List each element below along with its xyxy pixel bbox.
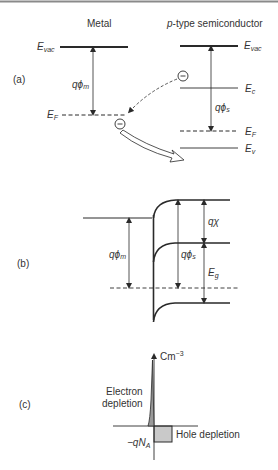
hole-depletion-label: Hole depletion bbox=[176, 429, 240, 440]
semi-ev-label: Ev bbox=[245, 143, 256, 155]
electron-transfer-arrow bbox=[130, 79, 177, 111]
semi-ec-label: Ec bbox=[245, 83, 256, 95]
phi-s-label: qϕs bbox=[181, 249, 196, 260]
panel-b: (b) qϕm qϕs qχ Eg bbox=[17, 200, 240, 322]
metal-semiconductor-band-diagram: (a) Metal p-type semiconductor Evac EF q… bbox=[0, 0, 278, 470]
hollow-flow-arrow bbox=[120, 130, 184, 162]
panel-c: (c) Cm−3 Electron depletion Hole depleti… bbox=[19, 350, 240, 460]
electron-affinity-label: qχ bbox=[208, 216, 220, 227]
electron-depletion-label-2: depletion bbox=[102, 398, 143, 409]
panel-a-label: (a) bbox=[13, 74, 25, 85]
metal-title: Metal bbox=[87, 18, 111, 29]
metal-evac-label: Evac bbox=[37, 41, 55, 53]
panel-a: (a) Metal p-type semiconductor Evac EF q… bbox=[13, 18, 263, 162]
semiconductor-title: p-type semiconductor bbox=[166, 18, 263, 29]
metal-work-function-label: qϕm bbox=[72, 79, 89, 90]
semi-work-function-label: qϕs bbox=[215, 102, 230, 113]
charge-unit-label: Cm−3 bbox=[160, 350, 184, 362]
panel-b-label: (b) bbox=[17, 258, 29, 269]
acceptor-charge-label: −qNA bbox=[127, 437, 151, 449]
panel-c-label: (c) bbox=[19, 399, 31, 410]
hole-depletion-box bbox=[154, 426, 172, 442]
semi-evac-label: Evac bbox=[244, 40, 262, 52]
bandgap-label: Eg bbox=[208, 267, 219, 280]
electron-depletion-label-1: Electron bbox=[106, 386, 143, 397]
metal-ef-label: EF bbox=[47, 109, 59, 121]
electron-depletion-spike bbox=[148, 360, 154, 426]
phi-m-label: qϕm bbox=[109, 249, 126, 260]
valence-band-bent bbox=[154, 303, 231, 322]
semi-ef-label: EF bbox=[245, 126, 257, 138]
